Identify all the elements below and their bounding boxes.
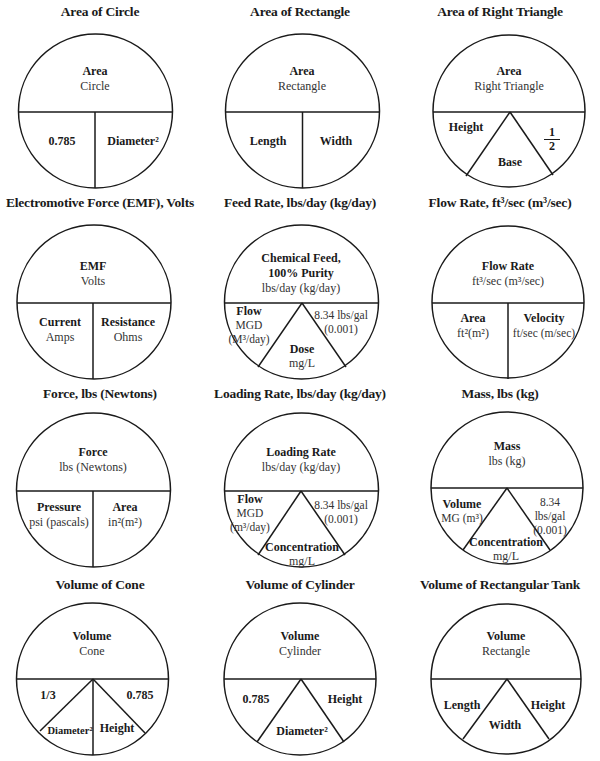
part-left: Current Amps — [39, 315, 81, 345]
part-left: 1/3 — [40, 688, 55, 703]
part-left: Height — [449, 120, 484, 135]
top-label: Area Rectangle — [278, 64, 326, 94]
wheel-volume-rect-tank: Volume of Rectangular Tank Volume Rectan… — [400, 573, 600, 761]
top-label: Mass lbs (kg) — [489, 439, 526, 469]
wheel-force: Force, lbs (Newtons) Force lbs (Newtons)… — [0, 382, 200, 573]
part-bottom: Concentration mg/L — [469, 535, 543, 563]
part-bottom: Dose mg/L — [289, 342, 315, 370]
part-left: Length — [444, 698, 481, 713]
part-right-fraction: 1 2 — [544, 126, 560, 154]
top-label: EMF Volts — [80, 259, 107, 289]
wheel-mass: Mass, lbs (kg) Mass lbs (kg) Volume MG (… — [400, 382, 600, 573]
fraction: 1 2 — [544, 126, 560, 153]
wheel-volume-cone: Volume of Cone Volume Cone 1/3 Diameter²… — [0, 573, 200, 761]
wheel-emf: Electromotive Force (EMF), Volts EMF Vol… — [0, 191, 200, 382]
wheel-loading-rate: Loading Rate, lbs/day (kg/day) Loading R… — [200, 382, 400, 573]
top-label: Chemical Feed, 100% Purity lbs/day (kg/d… — [261, 251, 340, 296]
circle-diagram — [0, 382, 200, 573]
part-left: Pressure psi (pascals) — [29, 500, 89, 530]
top-label: Flow Rate ft³/sec (m³/sec) — [472, 259, 544, 289]
part-right: Height — [531, 698, 566, 713]
part-left: Volume MG (m³) — [441, 497, 482, 525]
top-label: Loading Rate lbs/day (kg/day) — [262, 445, 340, 475]
top-label: Volume Cone — [73, 629, 112, 659]
circle-diagram — [0, 0, 200, 191]
circle-diagram — [200, 0, 400, 191]
part-right: 8.34 lbs/gal (0.001) — [525, 495, 575, 537]
part-left: Flow MGD (M³/day) — [228, 304, 269, 346]
part-right: Width — [320, 134, 352, 149]
wheel-volume-cylinder: Volume of Cylinder Volume Cylinder 0.785… — [200, 573, 400, 761]
part-left: 0.785 — [49, 134, 76, 149]
part-bottom: Concentration mg/L — [265, 540, 339, 568]
top-label: Area Right Triangle — [474, 64, 544, 94]
wheel-area-right-triangle: Area of Right Triangle Area Right Triang… — [400, 0, 600, 191]
part-bottom: Diameter² — [276, 724, 328, 739]
wheel-area-circle: Area of Circle Area Circle 0.785 Diamete… — [0, 0, 200, 191]
part-bottom-right: Height — [100, 721, 135, 736]
part-left: Flow MGD (m³/day) — [230, 492, 270, 534]
top-label: Volume Cylinder — [279, 629, 321, 659]
part-right: Height — [328, 692, 363, 707]
part-bottom-left: Diameter² — [47, 723, 92, 738]
part-bottom: Width — [489, 718, 521, 733]
part-right: 8.34 lbs/gal (0.001) — [314, 498, 368, 526]
part-left: Length — [250, 134, 287, 149]
part-right: 8.34 lbs/gal (0.001) — [314, 308, 368, 336]
part-left: Area ft²(m²) — [457, 311, 489, 341]
wheel-feed-rate: Feed Rate, lbs/day (kg/day) Chemical Fee… — [200, 191, 400, 382]
part-right: Area in²(m²) — [108, 500, 142, 530]
part-right: 0.785 — [127, 688, 154, 703]
wheel-area-rectangle: Area of Rectangle Area Rectangle Length … — [200, 0, 400, 191]
top-label: Volume Rectangle — [482, 629, 530, 659]
top-label: Force lbs (Newtons) — [59, 445, 127, 475]
part-left: 0.785 — [243, 692, 270, 707]
wheel-flow-rate: Flow Rate, ft³/sec (m³/sec) Flow Rate ft… — [400, 191, 600, 382]
part-right: Velocity ft/sec (m/sec) — [513, 311, 575, 341]
part-bottom: Base — [498, 155, 522, 170]
top-label: Area Circle — [80, 64, 109, 94]
part-right: Diameter² — [107, 134, 159, 149]
part-right: Resistance Ohms — [101, 315, 155, 345]
